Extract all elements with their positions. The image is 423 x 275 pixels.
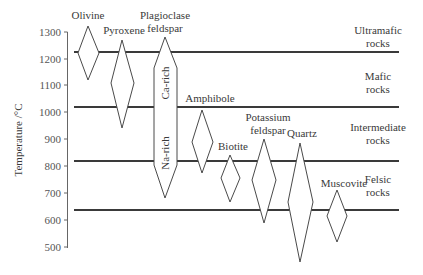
ultramafic-label-line1: Ultramafic [354,24,402,36]
bowen-reaction-diagram: 1300 1200 1100 1000 900 800 700 600 500 … [0,0,423,275]
tick-800: 800 [45,160,62,172]
muscovite-label: Muscovite [321,177,368,189]
biotite-diamond [221,155,240,202]
ca-rich-label: Ca-rich [159,66,171,99]
pyroxene-diamond [111,40,134,128]
tick-1100: 1100 [39,79,61,91]
olivine-diamond [78,26,99,80]
intermediate-label-line2: rocks [366,134,390,146]
tick-700: 700 [45,187,62,199]
olivine-label: Olivine [72,9,105,21]
muscovite-diamond [327,190,347,242]
plagioclase-shape [154,37,177,198]
tick-1000: 1000 [39,106,62,118]
amphibole-diamond [192,110,213,173]
ultramafic-label-line2: rocks [366,37,390,49]
y-tick-labels: 1300 1200 1100 1000 900 800 700 600 500 [39,26,62,253]
na-rich-label: Na-rich [159,136,171,170]
intermediate-label-line1: Intermediate [350,121,406,133]
felsic-label-line1: Felsic [365,173,391,185]
y-axis-label: Temperature /°C [12,104,24,177]
y-ticks [64,32,68,247]
tick-1200: 1200 [39,53,62,65]
plagioclase-label-line1: Plagioclase [140,9,190,21]
biotite-label: Biotite [218,140,248,152]
tick-600: 600 [45,214,62,226]
amphibole-label: Amphibole [185,92,235,104]
pyroxene-label: Pyroxene [103,24,145,36]
felsic-label-line2: rocks [366,186,390,198]
mafic-label-line2: rocks [366,83,390,95]
tick-500: 500 [45,241,62,253]
mafic-label-line1: Mafic [365,70,391,82]
quartz-label: Quartz [287,127,317,139]
potassium-feldspar-label-line1: Potassium [245,111,291,123]
potassium-feldspar-label-line2: feldspar [250,124,286,136]
plagioclase-label-line2: feldspar [147,22,183,34]
tick-900: 900 [45,133,62,145]
tick-1300: 1300 [39,26,62,38]
